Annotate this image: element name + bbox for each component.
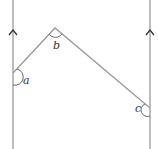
angle-a-label: a	[23, 74, 30, 87]
transversal-path	[13, 28, 150, 108]
angle-c-label: c	[135, 102, 141, 115]
parallel-lines-angle-diagram: a b c	[0, 0, 158, 149]
angle-b-label: b	[53, 39, 60, 52]
angle-b-arc	[49, 34, 62, 37]
angle-c-arc	[141, 104, 150, 117]
